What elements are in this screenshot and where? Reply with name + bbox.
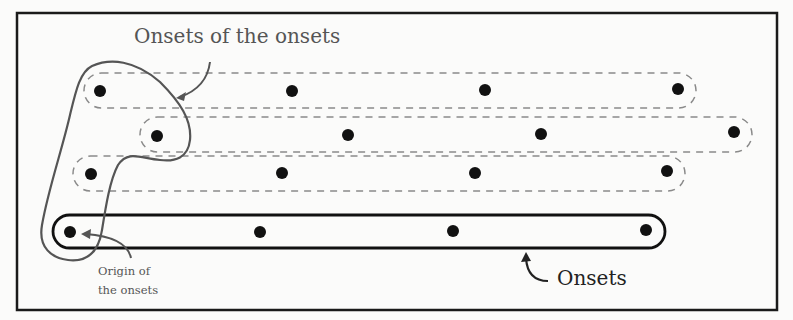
onset-dot bbox=[640, 224, 652, 236]
onsets-of-onsets-outline bbox=[41, 62, 190, 261]
arrowhead-icon bbox=[176, 92, 186, 101]
onsets-of-onsets-arrow bbox=[180, 62, 210, 97]
onset-dot bbox=[535, 128, 547, 140]
origin-arrow bbox=[86, 234, 131, 258]
origin-label-line-1: Origin of bbox=[98, 262, 158, 281]
onset-dot bbox=[276, 167, 288, 179]
origin-dot bbox=[64, 226, 76, 238]
onset-dot bbox=[94, 85, 106, 97]
onsets-of-onsets-label: Onsets of the onsets bbox=[134, 24, 340, 48]
onset-dot bbox=[342, 129, 354, 141]
row-2-dashed-capsule bbox=[140, 117, 752, 152]
onset-dot bbox=[151, 130, 163, 142]
onset-dot bbox=[479, 84, 491, 96]
onset-dot bbox=[728, 126, 740, 138]
onset-dot bbox=[447, 225, 459, 237]
onsets-arrow bbox=[526, 258, 548, 281]
row-2-dots bbox=[151, 126, 740, 142]
row-1-dashed-capsule bbox=[84, 73, 696, 108]
row-3-dots bbox=[85, 165, 673, 180]
onsets-label: Onsets bbox=[557, 266, 627, 290]
onset-dot bbox=[661, 165, 673, 177]
onset-dot bbox=[254, 226, 266, 238]
arrowhead-icon bbox=[81, 229, 91, 239]
origin-label: Origin of the onsets bbox=[98, 262, 158, 300]
onsets-solid-capsule bbox=[53, 215, 665, 248]
onset-dot bbox=[672, 83, 684, 95]
origin-label-line-2: the onsets bbox=[98, 281, 158, 300]
onset-dot bbox=[85, 168, 97, 180]
arrowhead-icon bbox=[521, 252, 531, 262]
onset-dot bbox=[286, 85, 298, 97]
onset-dot bbox=[469, 167, 481, 179]
row-4-dots bbox=[64, 224, 652, 238]
